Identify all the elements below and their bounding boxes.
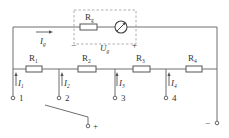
tap-1 xyxy=(59,69,166,96)
meter-branch: Rg − Ug + Ig xyxy=(13,10,217,54)
terminal-2-label: 2 xyxy=(65,93,70,103)
resistor-r2 xyxy=(78,66,96,72)
plus-terminal[interactable] xyxy=(86,124,90,128)
i3-label: I3 xyxy=(118,78,125,89)
resistor-r1 xyxy=(26,66,42,72)
rg-label: Rg xyxy=(85,12,94,23)
ig-arrow-icon xyxy=(36,30,53,33)
ug-minus-sign: − xyxy=(71,40,76,50)
plus-terminal-label: + xyxy=(93,121,98,131)
i4-label: I4 xyxy=(170,78,177,89)
terminal-2[interactable] xyxy=(57,96,61,100)
i1-label: I1 xyxy=(17,78,24,89)
ammeter-circuit-diagram: Rg − Ug + Ig R1 R2 R3 R4 xyxy=(0,0,229,138)
resistor-r3 xyxy=(133,66,150,72)
selector-switch[interactable] xyxy=(45,105,88,124)
minus-terminal[interactable] xyxy=(215,121,219,125)
r1-label: R1 xyxy=(29,53,38,64)
ug-plus-sign: + xyxy=(132,40,137,50)
ig-label: Ig xyxy=(39,36,46,47)
r3-label: R3 xyxy=(136,53,145,64)
ug-label: Ug xyxy=(100,43,110,54)
i2-label: I2 xyxy=(63,78,70,89)
r4-label: R4 xyxy=(188,53,197,64)
galvanometer-icon xyxy=(115,21,127,33)
terminal-3-label: 3 xyxy=(121,93,126,103)
resistor-r4 xyxy=(186,66,202,72)
terminal-4-label: 4 xyxy=(172,93,177,103)
terminal-1[interactable] xyxy=(11,96,15,100)
terminal-4[interactable] xyxy=(164,96,168,100)
terminal-3[interactable] xyxy=(113,96,117,100)
terminal-1-label: 1 xyxy=(19,93,24,103)
minus-terminal-label: − xyxy=(205,118,210,128)
r2-label: R2 xyxy=(82,53,91,64)
resistor-rg xyxy=(80,24,97,30)
